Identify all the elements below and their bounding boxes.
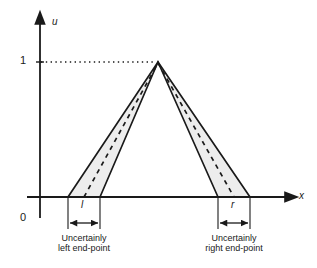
right-uncertainty-caption-line2: right end-point xyxy=(184,243,284,253)
y-axis-label: u xyxy=(52,16,58,28)
right-endpoint-label: r xyxy=(231,199,234,211)
figure-container: u x 1 0 l r Uncertainly left end-point U… xyxy=(0,0,317,268)
left-endpoint-label: l xyxy=(81,199,83,211)
x-axis-label: x xyxy=(299,190,304,202)
left-uncertainty-caption: Uncertainly left end-point xyxy=(34,233,134,254)
left-uncertainty-caption-line2: left end-point xyxy=(34,243,134,253)
right-uncertainty-caption: Uncertainly right end-point xyxy=(184,233,284,254)
right-uncertainty-caption-line1: Uncertainly xyxy=(184,233,284,243)
left-uncertainty-caption-line1: Uncertainly xyxy=(34,233,134,243)
figure-canvas xyxy=(0,0,317,268)
origin-label: 0 xyxy=(20,211,26,224)
y-tick-label-one: 1 xyxy=(20,54,26,67)
